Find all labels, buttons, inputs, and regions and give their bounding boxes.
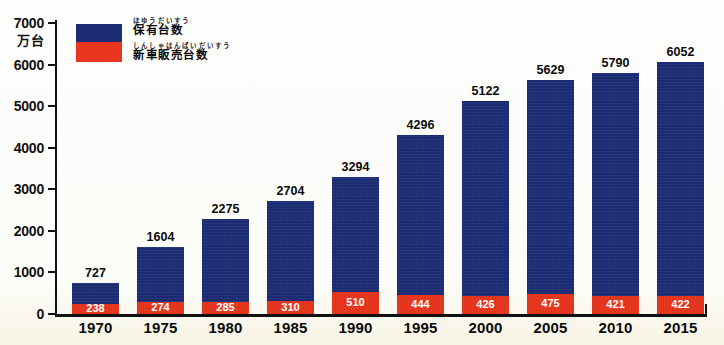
new-car-sales-value-1970: 238 <box>72 303 119 314</box>
x-axis-label-2005: 2005 <box>517 319 584 336</box>
bar-group-1970: 238727 <box>72 283 119 313</box>
owned-vehicles-value-2000: 5122 <box>450 84 521 98</box>
new-car-sales-value-1975: 274 <box>137 302 184 313</box>
owned-vehicles-value-2015: 6052 <box>645 45 716 59</box>
new-car-sales-value-1990: 510 <box>332 297 379 308</box>
new-car-sales-value-1995: 444 <box>397 299 444 310</box>
bar-group-1980: 2852275 <box>202 219 249 313</box>
bar-group-1975: 2741604 <box>137 247 184 314</box>
owned-vehicles-value-2005: 5629 <box>515 63 586 77</box>
owned-vehicles-value-1990: 3294 <box>320 160 391 174</box>
bar-group-2000: 4265122 <box>462 101 509 314</box>
new-car-sales-value-2000: 426 <box>462 299 509 310</box>
new-car-sales-value-1980: 285 <box>202 302 249 313</box>
owned-vehicles-value-1975: 1604 <box>125 230 196 244</box>
vehicle-ownership-and-sales-chart: ほゆうだいすう 保有台数 しんしゃはんばいだいすう 新車販売台数 万台 7000… <box>0 0 724 345</box>
bar-group-1990: 5103294 <box>332 177 379 314</box>
x-axis-label-1985: 1985 <box>257 319 324 336</box>
new-car-sales-value-2015: 422 <box>657 299 704 310</box>
plot-area: 2387271970274160419752852275198031027041… <box>0 0 724 345</box>
new-car-sales-value-1985: 310 <box>267 302 314 313</box>
x-axis-label-1975: 1975 <box>127 319 194 336</box>
x-axis-label-2000: 2000 <box>452 319 519 336</box>
owned-vehicles-value-1995: 4296 <box>385 118 456 132</box>
x-axis-label-1995: 1995 <box>387 319 454 336</box>
owned-vehicles-value-1985: 2704 <box>255 184 326 198</box>
bar-group-1985: 3102704 <box>267 201 314 313</box>
x-axis-label-1980: 1980 <box>192 319 259 336</box>
owned-vehicles-value-1970: 727 <box>60 266 131 280</box>
bar-group-1995: 4444296 <box>397 135 444 313</box>
owned-vehicles-value-2010: 5790 <box>580 56 651 70</box>
bar-group-2015: 4226052 <box>657 62 704 313</box>
new-car-sales-value-2010: 421 <box>592 299 639 310</box>
x-axis-label-1990: 1990 <box>322 319 389 336</box>
x-axis-label-2010: 2010 <box>582 319 649 336</box>
owned-vehicles-value-1980: 2275 <box>190 202 261 216</box>
new-car-sales-value-2005: 475 <box>527 298 574 309</box>
x-axis-label-1970: 1970 <box>62 319 129 336</box>
bar-group-2005: 4755629 <box>527 80 574 314</box>
bar-group-2010: 4215790 <box>592 73 639 313</box>
x-axis-label-2015: 2015 <box>647 319 714 336</box>
